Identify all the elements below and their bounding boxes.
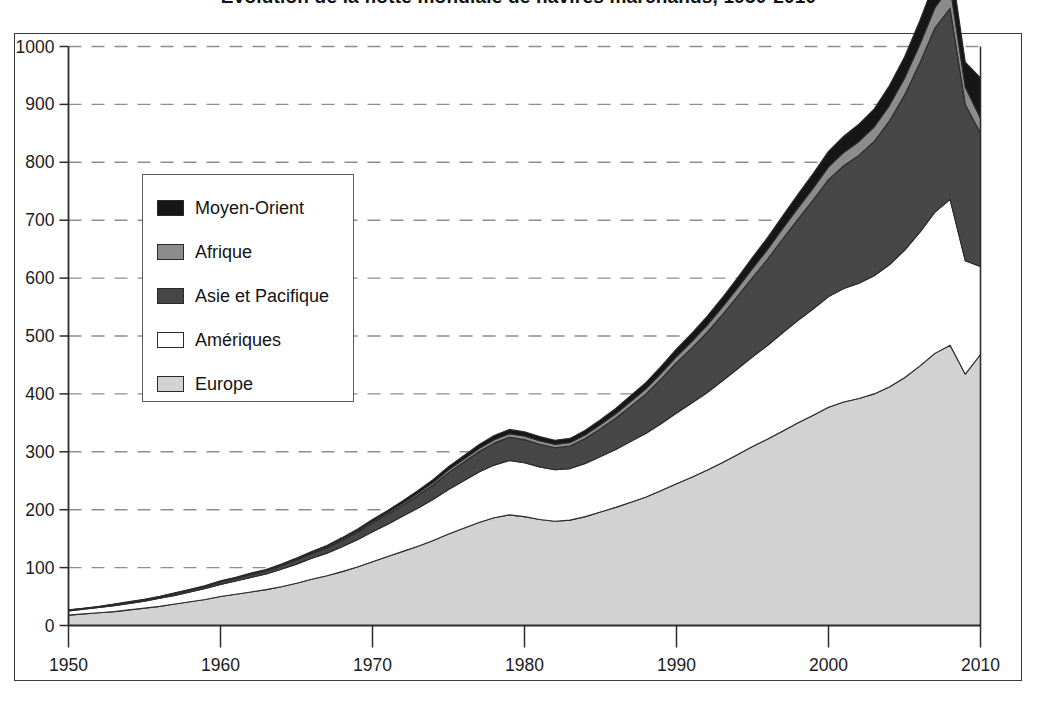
legend-swatch-asie-pacifique (157, 288, 184, 304)
y-axis-label: 100 (25, 558, 54, 578)
x-axis-label: 1970 (353, 655, 392, 675)
y-axis-label: 0 (45, 616, 55, 636)
x-axis-label: 1950 (49, 655, 88, 675)
y-axis-label: 300 (25, 442, 54, 462)
x-axis-label: 1960 (201, 655, 240, 675)
legend-label-asie-pacifique: Asie et Pacifique (195, 287, 329, 305)
legend-item-asie-pacifique: Asie et Pacifique (157, 275, 353, 316)
y-axis-label: 600 (25, 268, 54, 288)
legend-label-afrique: Afrique (195, 243, 252, 261)
y-axis-label: 400 (25, 384, 54, 404)
legend-label-moyen-orient: Moyen-Orient (195, 199, 304, 217)
legend-swatch-moyen-orient (157, 200, 184, 216)
legend-item-afrique: Afrique (157, 231, 353, 272)
legend-label-ameriques: Amériques (195, 331, 281, 349)
legend-item-europe: Europe (157, 363, 353, 404)
y-axis-label: 1000 (16, 37, 55, 57)
legend-swatch-ameriques (157, 332, 184, 348)
legend-label-europe: Europe (195, 375, 253, 393)
y-axis-label: 200 (25, 500, 54, 520)
chart-legend: Moyen-Orient Afrique Asie et Pacifique A… (142, 174, 354, 402)
legend-item-moyen-orient: Moyen-Orient (157, 187, 353, 228)
x-axis-label: 2010 (961, 655, 1000, 675)
y-axis-label: 800 (25, 152, 54, 172)
x-axis-label: 1980 (505, 655, 544, 675)
legend-swatch-afrique (157, 244, 184, 260)
figure-container: Évolution de la flotte mondiale de navir… (0, 0, 1037, 710)
y-axis-label: 700 (25, 210, 54, 230)
legend-item-ameriques: Amériques (157, 319, 353, 360)
y-axis-label: 500 (25, 326, 54, 346)
x-axis-labels-group: 1950196019701980199020002010 (49, 655, 1000, 675)
x-axis-label: 1990 (657, 655, 696, 675)
x-axis-label: 2000 (809, 655, 848, 675)
y-axis-label: 900 (25, 94, 54, 114)
legend-swatch-europe (157, 376, 184, 392)
y-axis-labels-group: 01002003004005006007008009001000 (16, 37, 55, 636)
